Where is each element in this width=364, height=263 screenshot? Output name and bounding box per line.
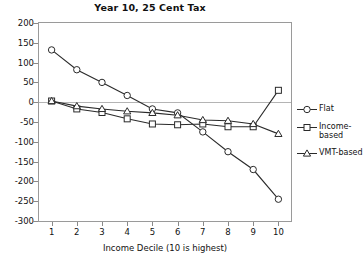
data-point-marker: [124, 116, 130, 122]
data-point-marker: [275, 87, 281, 93]
legend-label: VMT-based: [319, 148, 364, 157]
x-axis-tick-label: 8: [215, 227, 241, 237]
y-axis-tick-label: -150: [0, 157, 34, 167]
y-axis-tick-label: -300: [0, 216, 34, 226]
legend-item-income-based[interactable]: Income-based: [297, 122, 364, 141]
x-axis-tick-label: 10: [265, 227, 291, 237]
x-axis-tick-label: 1: [39, 227, 65, 237]
data-point-marker: [48, 47, 54, 53]
data-point-marker: [225, 149, 231, 155]
chart-figure: Year 10, 25 Cent Tax 200150100500-50-100…: [0, 0, 364, 263]
y-axis-tick-label: -250: [0, 196, 34, 206]
series-vmt-based: [48, 97, 282, 136]
legend-marker-triangle-icon: [297, 148, 317, 159]
x-axis-tick: [127, 222, 128, 226]
x-axis-tick-label: 7: [190, 227, 216, 237]
x-axis-tick: [102, 222, 103, 226]
x-axis-tick: [228, 222, 229, 226]
data-point-marker: [304, 106, 310, 112]
data-point-marker: [303, 150, 310, 156]
series-line: [52, 90, 279, 126]
y-axis-tick-label: 100: [0, 58, 34, 68]
legend-label: Flat: [319, 104, 364, 113]
x-axis-tick-label: 2: [64, 227, 90, 237]
data-point-marker: [200, 129, 206, 135]
y-axis-tick-label: 50: [0, 77, 34, 87]
y-axis-tick-label: -50: [0, 117, 34, 127]
x-axis-tick-label: 4: [114, 227, 140, 237]
y-axis-tick-label: -200: [0, 176, 34, 186]
y-axis-tick-label: 0: [0, 97, 34, 107]
data-point-marker: [275, 196, 281, 202]
x-axis-tick: [152, 222, 153, 226]
data-point-marker: [149, 121, 155, 127]
x-axis-tick: [52, 222, 53, 226]
data-point-marker: [124, 92, 130, 98]
y-axis-tick-label: -100: [0, 137, 34, 147]
x-axis-tick: [253, 222, 254, 226]
legend-marker-circle-icon: [297, 104, 317, 115]
x-axis-tick: [178, 222, 179, 226]
data-point-marker: [99, 79, 105, 85]
data-point-marker: [304, 125, 310, 131]
x-axis-tick: [278, 222, 279, 226]
x-axis-tick-label: 9: [240, 227, 266, 237]
chart-legend: FlatIncome-basedVMT-based: [297, 104, 364, 166]
legend-item-vmt-based[interactable]: VMT-based: [297, 148, 364, 159]
series-line: [52, 101, 279, 134]
chart-title: Year 10, 25 Cent Tax: [0, 2, 300, 13]
data-point-marker: [250, 166, 256, 172]
legend-marker-square-icon: [297, 122, 317, 133]
data-point-marker: [175, 122, 181, 128]
x-axis-tick: [203, 222, 204, 226]
x-axis-tick-label: 3: [89, 227, 115, 237]
y-axis-tick-label: 150: [0, 38, 34, 48]
legend-label: Income-based: [319, 122, 364, 141]
data-point-marker: [74, 67, 80, 73]
x-axis-tick: [77, 222, 78, 226]
legend-item-flat[interactable]: Flat: [297, 104, 364, 115]
x-axis-title: Income Decile (10 is highest): [38, 243, 292, 253]
x-axis-tick-label: 5: [139, 227, 165, 237]
plot-area: [38, 22, 292, 222]
data-point-marker: [225, 124, 231, 130]
data-series-layer: [39, 23, 291, 221]
x-axis-tick-label: 6: [165, 227, 191, 237]
y-axis-tick-label: 200: [0, 18, 34, 28]
